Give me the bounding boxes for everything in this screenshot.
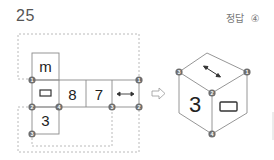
svg-text:2: 2 [30,104,33,110]
cube-top-double-arrow-icon [204,66,221,77]
marker-3-icon: 3 [28,130,35,137]
double-arrow-icon [117,92,134,96]
diagram-canvas: m 8 7 3 1 1 2 4 3 2 3 3 3 1 2 4 [0,0,274,160]
svg-text:1: 1 [137,77,140,83]
marker-3-icon: 3 [175,68,182,75]
svg-text:3: 3 [30,131,33,137]
rectangle-symbol-icon [40,90,51,96]
marker-1-icon: 1 [28,76,35,83]
marker-4-icon: 4 [55,103,62,110]
marker-2-icon: 2 [208,89,215,96]
svg-text:2: 2 [210,90,213,96]
marker-4-icon: 4 [208,130,215,137]
svg-text:1: 1 [30,77,33,83]
marker-1-icon: 1 [135,76,142,83]
marker-2-icon: 2 [28,103,35,110]
svg-text:3: 3 [110,104,113,110]
transform-arrow-icon [152,88,165,99]
svg-text:1: 1 [245,69,248,75]
cube-vertex-markers: 3 1 2 4 [175,68,250,137]
svg-text:3: 3 [177,69,180,75]
marker-2-icon: 2 [135,103,142,110]
net-label-m: m [39,58,52,75]
cube-face-label-3: 3 [189,92,201,117]
svg-text:2: 2 [137,104,140,110]
net-label-7: 7 [95,86,103,103]
net-row [32,80,139,107]
cube-rectangle-symbol-icon [220,102,237,111]
net-label-3: 3 [41,112,49,129]
net-label-8: 8 [68,86,76,103]
marker-3-icon: 3 [108,103,115,110]
marker-1-icon: 1 [243,68,250,75]
